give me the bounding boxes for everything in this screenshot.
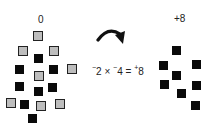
gray-square-icon — [49, 46, 59, 56]
black-square-icon — [172, 46, 181, 55]
black-square-icon — [34, 54, 43, 63]
gray-square-icon — [36, 101, 46, 111]
black-square-icon — [172, 71, 181, 80]
gray-square-icon — [18, 46, 28, 56]
black-square-icon — [34, 87, 43, 96]
left-group-label: 0 — [38, 14, 44, 25]
black-square-icon — [15, 65, 24, 74]
black-square-icon — [49, 65, 58, 74]
black-square-icon — [15, 82, 24, 91]
multiplication-diagram: 0 +8 −2 × −4 = +8 — [0, 0, 218, 132]
black-square-icon — [160, 80, 169, 89]
black-square-icon — [177, 89, 186, 98]
gray-square-icon — [6, 98, 16, 108]
black-square-icon — [20, 100, 29, 109]
black-square-icon — [159, 61, 168, 70]
black-square-icon — [28, 114, 37, 123]
black-square-icon — [192, 60, 201, 69]
gray-square-icon — [34, 71, 44, 81]
right-group-label: +8 — [174, 13, 185, 24]
black-square-icon — [191, 101, 200, 110]
black-square-icon — [192, 81, 201, 90]
gray-square-icon — [33, 31, 43, 41]
gray-square-icon — [55, 99, 65, 109]
curved-arrow-icon — [96, 26, 128, 48]
equation: −2 × −4 = +8 — [92, 64, 144, 77]
gray-square-icon — [67, 64, 77, 74]
black-square-icon — [48, 83, 57, 92]
